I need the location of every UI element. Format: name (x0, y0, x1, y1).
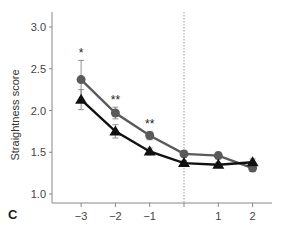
y-axis-label: Straightness score (9, 69, 21, 160)
y-tick-label: 2.5 (31, 63, 46, 75)
x-tick-label: −2 (109, 210, 122, 222)
circle-marker (77, 75, 86, 84)
circle-series (77, 60, 258, 172)
panel-label: C (8, 207, 18, 222)
significance-marker: ** (111, 93, 121, 107)
circle-marker (214, 151, 223, 160)
circle-marker (111, 109, 120, 118)
significance-marker: ** (145, 117, 155, 131)
x-tick-label: 1 (215, 210, 221, 222)
x-tick-label: 2 (250, 210, 256, 222)
significance-marker: * (79, 46, 84, 60)
y-tick-label: 1.0 (31, 188, 46, 200)
circle-marker (145, 131, 154, 140)
series-group (75, 60, 259, 172)
y-tick-label: 2.0 (31, 105, 46, 117)
x-tick-label: −1 (143, 210, 156, 222)
triangle-marker (144, 145, 156, 155)
line-chart: 1.01.52.02.53.0−3−2−112 ***** Straightne… (0, 0, 282, 232)
triangle-marker (247, 156, 259, 166)
circle-marker (180, 149, 189, 158)
y-tick-label: 1.5 (31, 146, 46, 158)
y-tick-label: 3.0 (31, 21, 46, 33)
triangle-marker (75, 94, 87, 104)
x-tick-label: −3 (75, 210, 88, 222)
series-line (81, 100, 253, 165)
